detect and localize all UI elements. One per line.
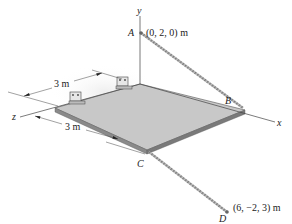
point-b-label: B xyxy=(225,95,231,106)
plate-cable-diagram: y x z A (0, 2, 0) m B C D (6, −2, 3) m xyxy=(0,0,292,224)
point-a-coords: (0, 2, 0) m xyxy=(146,27,188,39)
dimension-top-label: 3 m xyxy=(54,78,70,89)
y-axis-label: y xyxy=(136,5,142,16)
x-axis-label: x xyxy=(276,117,282,128)
point-d-label: D xyxy=(218,213,227,224)
z-axis-label: z xyxy=(11,111,16,122)
point-d-coords: (6, −2, 3) m xyxy=(233,202,281,214)
point-a-marker xyxy=(139,31,143,35)
point-c-label: C xyxy=(137,158,144,169)
cable-cd xyxy=(149,152,227,212)
dimension-bottom-label: 3 m xyxy=(65,121,81,132)
point-a-label: A xyxy=(127,27,135,38)
